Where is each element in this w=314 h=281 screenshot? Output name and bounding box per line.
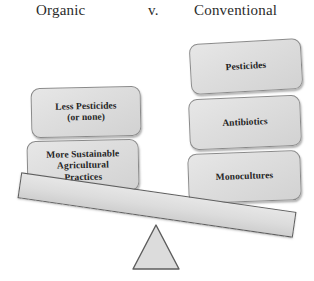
heading-organic: Organic — [36, 2, 85, 19]
seesaw-fulcrum-triangle-icon — [131, 223, 181, 271]
box-pesticides: Pesticides — [189, 38, 304, 95]
box-monocultures: Monocultures — [187, 150, 302, 204]
box-monocultures-label: Monocultures — [216, 170, 274, 183]
seesaw-comparison-diagram: Organic v. Conventional Less Pesticides … — [0, 0, 314, 281]
heading-versus: v. — [148, 2, 159, 19]
box-less-pesticides-label: Less Pesticides (or none) — [55, 100, 117, 124]
box-pesticides-label: Pesticides — [225, 60, 266, 74]
box-less-pesticides: Less Pesticides (or none) — [30, 86, 141, 138]
box-antibiotics-label: Antibiotics — [222, 116, 268, 129]
heading-conventional: Conventional — [194, 2, 277, 19]
box-antibiotics: Antibiotics — [188, 95, 302, 151]
